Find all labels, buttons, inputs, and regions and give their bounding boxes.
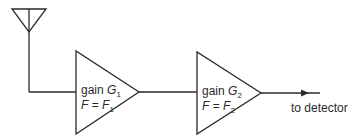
amplifier-stage-2: gain G2 F = F2	[197, 52, 261, 134]
receiver-chain-diagram: gain G1 F = F1 gain G2 F = F2 to detecto…	[0, 0, 359, 139]
output-label: to detector	[291, 101, 348, 115]
amplifier-stage-1: gain G1 F = F1	[76, 51, 139, 134]
antenna-icon	[12, 9, 46, 92]
amp1-noise-figure-label: F = F1	[81, 98, 114, 114]
amp2-gain-label: gain G2	[202, 84, 242, 100]
amp1-gain-label: gain G1	[81, 83, 121, 99]
arrow-right-icon	[301, 90, 309, 97]
amp2-noise-figure-label: F = F2	[202, 99, 235, 115]
